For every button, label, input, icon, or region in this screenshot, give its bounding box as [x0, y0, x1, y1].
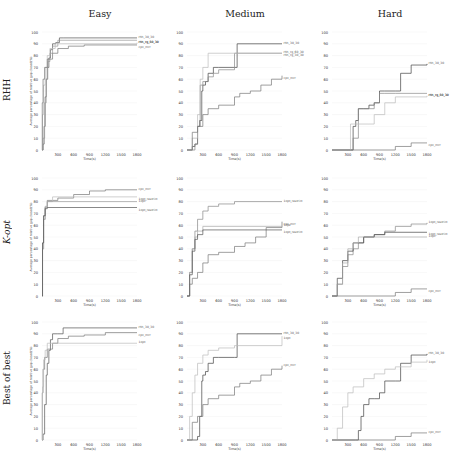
svg-text:1800: 1800: [422, 443, 432, 447]
svg-text:1800: 1800: [277, 443, 287, 447]
svg-text:30: 30: [323, 113, 328, 117]
svg-text:300: 300: [344, 443, 352, 447]
svg-text:40: 40: [33, 247, 38, 251]
svg-text:1opt: 1opt: [139, 340, 147, 344]
svg-text:30: 30: [33, 259, 38, 263]
svg-text:rhh_30_30: rhh_30_30: [284, 41, 300, 45]
svg-text:rhh_rg_60_30: rhh_rg_60_30: [284, 50, 304, 54]
chart-panel-best-of-best-easy: 0102030405060708090100300600900120015001…: [18, 312, 168, 454]
svg-text:30: 30: [178, 113, 183, 117]
svg-text:80: 80: [33, 344, 38, 348]
svg-text:90: 90: [323, 188, 328, 192]
svg-text:80: 80: [323, 344, 328, 348]
svg-text:80: 80: [323, 54, 328, 58]
svg-text:rhh_30_30: rhh_30_30: [139, 325, 155, 329]
svg-text:90: 90: [33, 188, 38, 192]
svg-text:60: 60: [323, 224, 328, 228]
svg-text:20: 20: [323, 415, 328, 419]
svg-text:Average percentage of relative: Average percentage of relative gap close…: [29, 347, 33, 416]
svg-text:Time(s): Time(s): [227, 447, 241, 451]
svg-text:40: 40: [178, 101, 183, 105]
svg-text:300: 300: [199, 153, 207, 157]
svg-text:100: 100: [321, 177, 329, 181]
svg-text:100: 100: [31, 321, 39, 325]
svg-text:80: 80: [33, 54, 38, 58]
chart-panel-best-of-best-hard: 0102030405060708090100300600900120015001…: [308, 312, 455, 454]
svg-text:300: 300: [199, 299, 207, 303]
svg-text:40: 40: [323, 101, 328, 105]
svg-text:rhh_rg_60_30: rhh_rg_60_30: [429, 93, 449, 97]
svg-text:600: 600: [215, 299, 223, 303]
svg-text:cpx_mrr: cpx_mrr: [139, 187, 152, 191]
chart-panel-k-opt-medium: 0102030405060708090100300600900120015001…: [163, 168, 313, 318]
chart-panel-k-opt-hard: 0102030405060708090100300600900120015001…: [308, 168, 455, 318]
svg-text:10: 10: [323, 137, 328, 141]
svg-text:60: 60: [178, 368, 183, 372]
svg-text:30: 30: [323, 403, 328, 407]
svg-text:20: 20: [178, 271, 183, 275]
svg-text:100: 100: [321, 321, 329, 325]
svg-text:90: 90: [178, 188, 183, 192]
svg-text:100: 100: [321, 31, 329, 35]
svg-text:20: 20: [323, 271, 328, 275]
svg-text:1opt: 1opt: [284, 223, 292, 227]
svg-text:Time(s): Time(s): [372, 447, 386, 451]
chart-panel-rhh-easy: 0102030405060708090100300600900120015001…: [18, 22, 168, 172]
chart-panel-rhh-medium: 0102030405060708090100300600900120015001…: [163, 22, 313, 172]
svg-text:Average percentage of relative: Average percentage of relative gap close…: [29, 203, 33, 272]
svg-text:1500: 1500: [407, 299, 417, 303]
svg-text:60: 60: [178, 78, 183, 82]
svg-text:1200: 1200: [391, 443, 401, 447]
svg-text:1500: 1500: [117, 299, 127, 303]
svg-text:50: 50: [33, 90, 38, 94]
svg-text:1800: 1800: [422, 299, 432, 303]
chart-panel-rhh-hard: 0102030405060708090100300600900120015001…: [308, 22, 455, 172]
svg-text:1500: 1500: [117, 443, 127, 447]
svg-text:1opt: 1opt: [429, 360, 437, 364]
svg-text:50: 50: [178, 90, 183, 94]
svg-text:10: 10: [33, 137, 38, 141]
svg-text:70: 70: [323, 212, 328, 216]
svg-text:1opt: 1opt: [284, 336, 292, 340]
svg-text:60: 60: [33, 368, 38, 372]
svg-text:cpx_mrr: cpx_mrr: [429, 430, 442, 434]
svg-text:60: 60: [323, 78, 328, 82]
svg-text:70: 70: [323, 66, 328, 70]
svg-text:1800: 1800: [132, 299, 142, 303]
svg-text:1200: 1200: [101, 299, 111, 303]
svg-text:1opt_restrict: 1opt_restrict: [429, 220, 449, 224]
svg-text:600: 600: [70, 153, 78, 157]
svg-text:50: 50: [323, 380, 328, 384]
chart-panel-best-of-best-medium: 0102030405060708090100300600900120015001…: [163, 312, 313, 454]
svg-text:0: 0: [36, 295, 39, 299]
svg-text:40: 40: [323, 391, 328, 395]
svg-text:60: 60: [33, 224, 38, 228]
svg-text:Time(s): Time(s): [372, 157, 386, 161]
svg-text:1200: 1200: [101, 443, 111, 447]
svg-text:1800: 1800: [277, 153, 287, 157]
svg-text:10: 10: [178, 137, 183, 141]
svg-text:20: 20: [323, 125, 328, 129]
column-title-easy: Easy: [40, 8, 160, 19]
svg-text:rhh_30_30: rhh_30_30: [429, 351, 445, 355]
svg-text:1500: 1500: [407, 443, 417, 447]
svg-text:100: 100: [31, 177, 39, 181]
svg-text:50: 50: [33, 236, 38, 240]
svg-text:1500: 1500: [407, 153, 417, 157]
svg-text:70: 70: [178, 212, 183, 216]
svg-text:1opt_restrict: 1opt_restrict: [284, 199, 304, 203]
svg-text:cpx_mrr: cpx_mrr: [284, 363, 297, 367]
svg-text:70: 70: [178, 356, 183, 360]
svg-text:0: 0: [181, 149, 184, 153]
svg-text:40: 40: [33, 391, 38, 395]
svg-text:100: 100: [176, 321, 184, 325]
svg-text:20: 20: [33, 415, 38, 419]
svg-text:100: 100: [31, 31, 39, 35]
svg-text:1200: 1200: [391, 153, 401, 157]
svg-text:50: 50: [323, 236, 328, 240]
svg-text:1500: 1500: [262, 443, 272, 447]
svg-text:90: 90: [323, 332, 328, 336]
svg-text:cpx_mrr: cpx_mrr: [429, 143, 442, 147]
svg-text:70: 70: [33, 66, 38, 70]
svg-text:cpx_mrr: cpx_mrr: [139, 45, 152, 49]
